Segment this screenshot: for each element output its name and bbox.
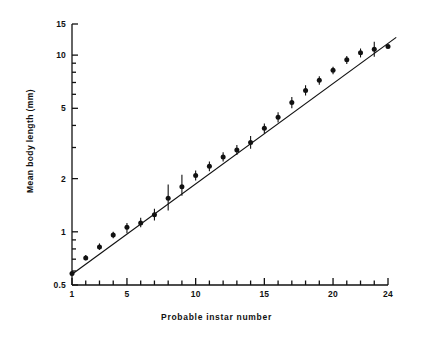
data-point <box>331 68 336 73</box>
data-point <box>193 173 198 178</box>
data-point <box>262 126 267 131</box>
data-point <box>221 155 226 160</box>
y-tick-label: 10 <box>30 50 66 60</box>
data-point <box>179 184 184 189</box>
data-point <box>303 88 308 93</box>
data-point <box>70 271 75 276</box>
fit-line <box>72 37 396 274</box>
data-point <box>97 245 102 250</box>
data-point <box>386 44 391 49</box>
x-tick-label: 1 <box>57 289 87 299</box>
data-point <box>248 140 253 145</box>
data-point <box>111 232 116 237</box>
data-point <box>83 256 88 261</box>
fit-line-layer <box>72 37 396 274</box>
x-tick-label: 15 <box>249 289 279 299</box>
y-tick-label: 2 <box>30 174 66 184</box>
y-tick-label: 1 <box>30 227 66 237</box>
x-tick-label: 10 <box>181 289 211 299</box>
x-tick-label: 20 <box>318 289 348 299</box>
data-point <box>166 196 171 201</box>
y-tick-label: 5 <box>30 103 66 113</box>
x-tick-label: 5 <box>112 289 142 299</box>
data-point <box>276 115 281 120</box>
data-point <box>234 148 239 153</box>
data-point <box>317 78 322 83</box>
x-axis-label: Probable instar number <box>0 312 433 322</box>
y-tick-label: 15 <box>30 19 66 29</box>
x-tick-label: 24 <box>373 289 403 299</box>
data-point <box>207 164 212 169</box>
y-axis-label: Mean body length (mm) <box>25 51 35 231</box>
data-point <box>344 57 349 62</box>
data-point <box>372 47 377 52</box>
chart-figure: 0.512510151510152024 Mean body length (m… <box>0 0 433 338</box>
data-point <box>138 221 143 226</box>
axis-layer <box>72 24 388 285</box>
data-point <box>124 225 129 230</box>
data-point <box>289 100 294 105</box>
data-point <box>358 50 363 55</box>
data-point <box>152 212 157 217</box>
